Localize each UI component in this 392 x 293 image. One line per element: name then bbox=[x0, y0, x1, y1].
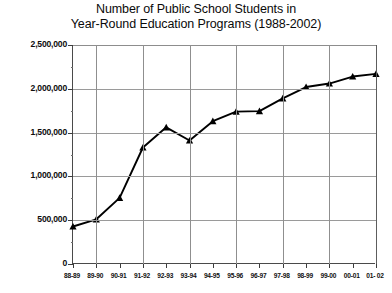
gridline-horizontal bbox=[73, 133, 376, 134]
gridline-vertical bbox=[236, 45, 237, 264]
x-axis-labels: 88-8989-9090-9191-9292-9393-9494-9595-96… bbox=[72, 272, 375, 286]
data-point-marker bbox=[163, 124, 170, 131]
gridline-horizontal bbox=[73, 89, 376, 90]
y-axis-tick bbox=[68, 45, 73, 46]
x-axis-tick bbox=[306, 264, 307, 268]
gridline-horizontal bbox=[73, 176, 376, 177]
y-axis-tick bbox=[68, 89, 73, 90]
y-axis-label: 500,000 bbox=[3, 214, 67, 224]
plot-area bbox=[72, 45, 375, 264]
y-axis-tick bbox=[68, 133, 73, 134]
gridline-vertical bbox=[96, 45, 97, 264]
chart-title: Number of Public School Students in Year… bbox=[0, 2, 392, 32]
x-axis-tick bbox=[329, 264, 330, 268]
y-axis-minor-tick bbox=[71, 111, 73, 112]
x-axis-tick bbox=[376, 264, 377, 268]
y-axis-minor-tick bbox=[71, 198, 73, 199]
x-axis-tick bbox=[236, 264, 237, 268]
y-axis-labels: 0500,0001,000,0001,500,0002,000,0002,500… bbox=[0, 45, 67, 264]
y-axis-label: 2,000,000 bbox=[3, 83, 67, 93]
y-axis-minor-tick bbox=[71, 67, 73, 68]
y-axis-label: 1,500,000 bbox=[3, 127, 67, 137]
data-series-line bbox=[73, 45, 376, 264]
x-axis-tick bbox=[283, 264, 284, 268]
x-axis-tick bbox=[353, 264, 354, 268]
series-line bbox=[73, 74, 376, 227]
gridline-horizontal bbox=[73, 220, 376, 221]
y-axis-label: 1,000,000 bbox=[3, 170, 67, 180]
y-axis-tick bbox=[68, 176, 73, 177]
gridline-vertical bbox=[376, 45, 377, 264]
y-axis-label: 0 bbox=[3, 258, 67, 268]
x-axis-tick bbox=[213, 264, 214, 268]
x-axis-tick bbox=[190, 264, 191, 268]
x-axis-tick bbox=[120, 264, 121, 268]
data-point-marker bbox=[116, 194, 123, 201]
chart-title-line-1: Number of Public School Students in bbox=[0, 2, 392, 17]
y-axis-label: 2,500,000 bbox=[3, 39, 67, 49]
gridline-horizontal bbox=[73, 45, 376, 46]
x-axis-tick bbox=[259, 264, 260, 268]
y-axis-minor-tick bbox=[71, 242, 73, 243]
gridline-vertical bbox=[329, 45, 330, 264]
x-axis-tick bbox=[96, 264, 97, 268]
gridline-vertical bbox=[190, 45, 191, 264]
chart-figure: Number of Public School Students in Year… bbox=[0, 0, 392, 293]
y-axis-minor-tick bbox=[71, 155, 73, 156]
x-axis-tick bbox=[143, 264, 144, 268]
gridline-vertical bbox=[143, 45, 144, 264]
y-axis-tick bbox=[68, 220, 73, 221]
x-axis-tick bbox=[166, 264, 167, 268]
x-axis-tick bbox=[73, 264, 74, 268]
gridline-vertical bbox=[283, 45, 284, 264]
chart-title-line-2: Year-Round Education Programs (1988-2002… bbox=[0, 17, 392, 32]
x-axis-label: 01- 02 bbox=[355, 272, 392, 279]
